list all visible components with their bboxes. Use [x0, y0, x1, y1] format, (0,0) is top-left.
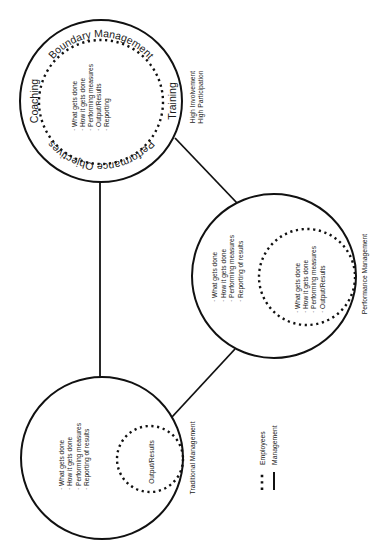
- list-item: · Reporting: [103, 98, 111, 131]
- list-item: · Performing measures: [228, 234, 236, 302]
- list-item: · What gets done: [294, 262, 302, 313]
- list-item: · What gets done: [58, 439, 66, 490]
- label-training: Training: [166, 82, 178, 120]
- label-coaching: Coaching: [28, 79, 40, 124]
- list-item: · Output/Results: [319, 265, 327, 313]
- performance-outer-list: · What gets done · How it gets done · Pe…: [211, 234, 245, 302]
- management-models-diagram: Boundary Management Coaching Training Pe…: [0, 0, 377, 552]
- high-involvement-model: Boundary Management Coaching Training Pe…: [20, 20, 205, 182]
- list-item: · Performing measures: [310, 245, 318, 313]
- label-performance-objectives: Performance Objectives: [44, 139, 157, 174]
- traditional-management-caption: Traditional Management: [189, 421, 197, 494]
- performance-management-caption: Performance Management: [361, 234, 369, 315]
- list-item: · Output/Results: [95, 83, 103, 131]
- legend-item-management: Management: [271, 425, 279, 490]
- svg-text:High Participation: High Participation: [197, 70, 205, 123]
- performance-management-model: · What gets done · How it gets done · Pe…: [192, 194, 369, 358]
- connector-top-to-middle: [175, 138, 237, 203]
- list-item: · How it gets done: [79, 78, 87, 131]
- list-item: · How it gets done: [220, 249, 228, 302]
- list-item: · What gets done: [211, 251, 219, 302]
- legend: Employees Management: [259, 425, 279, 490]
- list-item: · Performing measures: [75, 422, 83, 490]
- traditional-outer-list: · What gets done · How it gets done · Pe…: [58, 422, 91, 490]
- list-item: · What gets done: [71, 80, 79, 131]
- list-item: · Reporting of results: [237, 240, 245, 302]
- list-item: · Reporting of results: [83, 428, 91, 490]
- performance-inner-list: · What gets done · How it gets done · Pe…: [294, 245, 327, 313]
- legend-item-employees: Employees: [259, 431, 267, 490]
- traditional-management-model: · What gets done · How it gets done · Pe…: [21, 377, 197, 539]
- connector-middle-to-bottom: [172, 349, 235, 417]
- traditional-inner-label: Output/Results: [148, 439, 156, 483]
- label-boundary-management: Boundary Management: [46, 27, 157, 61]
- list-item: · Performing measures: [87, 63, 95, 131]
- high-involvement-list: · What gets done · How it gets done · Pe…: [71, 63, 111, 131]
- list-item: · How it gets done: [302, 260, 310, 313]
- legend-label-employees: Employees: [259, 431, 267, 465]
- high-involvement-caption: High Involvement High Participation: [189, 70, 205, 123]
- legend-label-management: Management: [271, 425, 279, 465]
- list-item: · How it gets done: [66, 437, 74, 490]
- management-ring: [21, 377, 183, 539]
- svg-text:High Involvement: High Involvement: [189, 71, 197, 124]
